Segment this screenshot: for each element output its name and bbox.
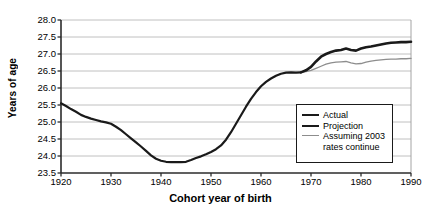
x-tick-label: 1940 [141,177,181,187]
legend-item-projection: Projection [302,121,392,132]
y-tick-label: 27.5 [22,32,56,42]
y-tick-label: 24.0 [22,151,56,161]
series-line [61,72,301,162]
legend-item-assuming: Assuming 2003 rates continue [302,131,392,152]
x-tick-label: 1980 [341,177,381,187]
line-swatch-assuming [302,131,319,141]
x-tick-label: 1970 [291,177,331,187]
x-tick-label: 1930 [91,177,131,187]
y-tick-label: 25.5 [22,100,56,110]
legend-label-assuming: Assuming 2003 rates continue [323,131,385,152]
line-swatch-projection [302,121,319,131]
legend-label-projection: Projection [323,121,363,132]
y-tick-label: 27.0 [22,49,56,59]
x-tick-label: 1920 [41,177,81,187]
x-tick-label: 1960 [241,177,281,187]
y-tick-label: 28.0 [22,15,56,25]
y-tick-label: 24.5 [22,134,56,144]
y-tick-label: 25.0 [22,117,56,127]
legend-item-actual: Actual [302,110,392,121]
legend-label-actual: Actual [323,110,348,121]
chart-figure: Years of age Cohort year of birth Actual… [0,0,441,216]
y-tick-label: 26.5 [22,66,56,76]
x-tick-label: 1950 [191,177,231,187]
chart-legend: Actual Projection Assuming 2003 rates co… [296,104,393,163]
x-tick-label: 1990 [391,177,431,187]
line-swatch-actual [302,110,319,120]
y-tick-label: 26.0 [22,83,56,93]
